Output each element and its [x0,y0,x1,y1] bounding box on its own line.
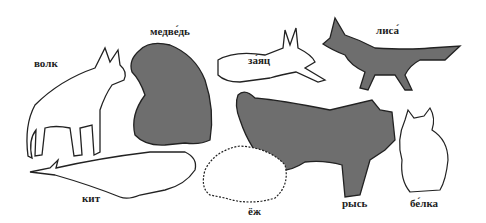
label-hare: за́яц [248,55,270,66]
hare-figure [218,28,325,82]
label-fox: лиса́ [376,25,399,36]
animals-drawing [0,0,486,223]
squirrel-figure [400,108,448,192]
bear-figure [131,43,212,145]
label-lynx: рысь [342,198,367,209]
label-squirrel: бе́лка [410,198,438,209]
label-bear: медве́дь [150,26,190,37]
whale-figure [30,152,196,198]
label-hedgehog: ёж [248,206,261,217]
label-wolf: волк [34,58,58,69]
label-whale: кит [82,193,100,204]
